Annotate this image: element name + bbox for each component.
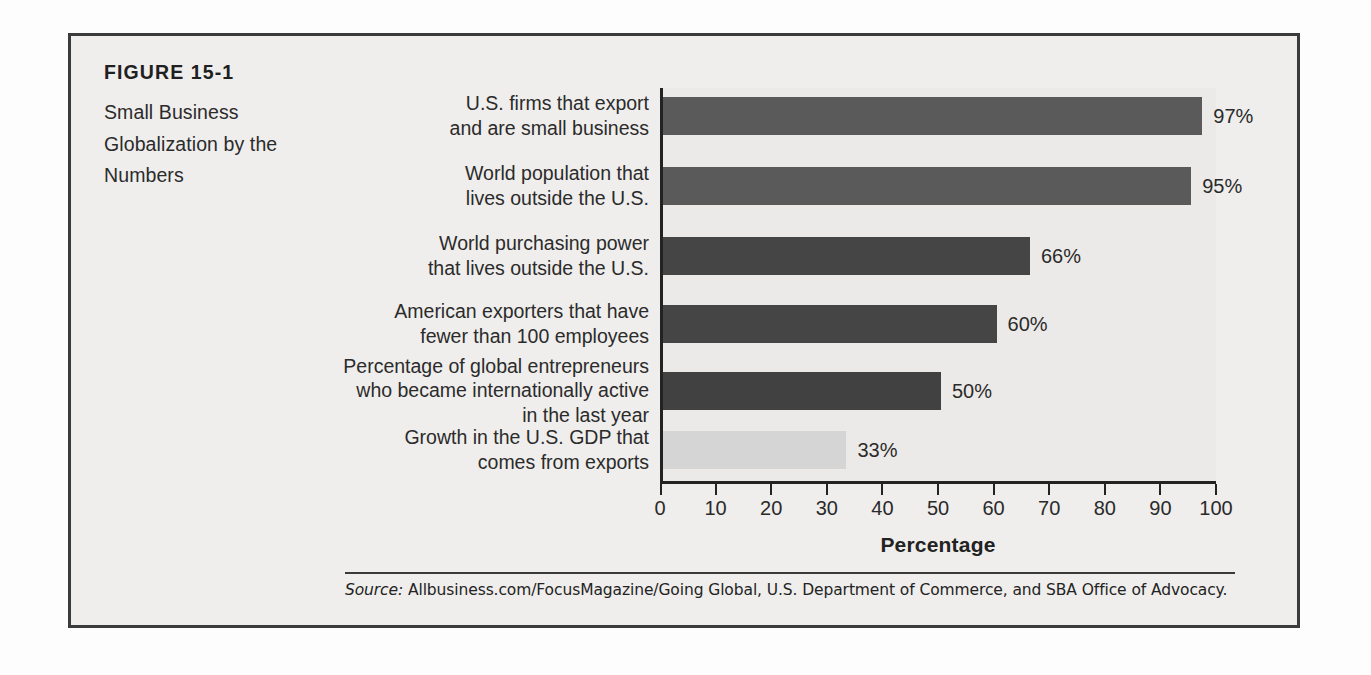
- category-label: Percentage of global entrepreneurs who b…: [343, 354, 649, 429]
- bar: [663, 305, 997, 343]
- bar-value-label: 60%: [1008, 313, 1048, 336]
- category-label: Growth in the U.S. GDP that comes from e…: [404, 425, 649, 475]
- x-axis-tick: [937, 484, 939, 495]
- x-axis-tick-label: 80: [1094, 497, 1116, 520]
- source-label: Source:: [345, 581, 403, 599]
- source-note: Source: Allbusiness.com/FocusMagazine/Go…: [345, 581, 1235, 599]
- x-axis-tick-label: 30: [816, 497, 838, 520]
- figure-frame: FIGURE 15-1 Small Business Globalization…: [68, 33, 1300, 628]
- scanned-page: FIGURE 15-1 Small Business Globalization…: [0, 0, 1371, 675]
- x-axis-tick-label: 20: [760, 497, 782, 520]
- x-axis-tick: [1159, 484, 1161, 495]
- bar: [663, 97, 1202, 135]
- bar-row: 66%: [663, 237, 1219, 275]
- x-axis-tick: [1104, 484, 1106, 495]
- bar-row: 60%: [663, 305, 1219, 343]
- category-label: U.S. firms that export and are small bus…: [450, 91, 649, 141]
- bar-row: 50%: [663, 372, 1219, 410]
- x-axis-tick-label: 10: [704, 497, 726, 520]
- bar: [663, 167, 1191, 205]
- x-axis-tick: [715, 484, 717, 495]
- x-axis-tick-label: 50: [927, 497, 949, 520]
- category-label: World purchasing power that lives outsid…: [428, 231, 649, 281]
- source-text: Allbusiness.com/FocusMagazine/Going Glob…: [403, 581, 1227, 599]
- x-axis-tick: [826, 484, 828, 495]
- x-axis-title: Percentage: [660, 533, 1216, 557]
- category-label: World population that lives outside the …: [465, 161, 649, 211]
- x-axis-tick-label: 70: [1038, 497, 1060, 520]
- bar-row: 97%: [663, 97, 1219, 135]
- x-axis-tick-label: 40: [871, 497, 893, 520]
- category-axis-line: [660, 88, 663, 481]
- x-axis-tick: [1048, 484, 1050, 495]
- category-axis-labels: U.S. firms that export and are small bus…: [71, 88, 649, 481]
- category-label: American exporters that have fewer than …: [394, 299, 649, 349]
- bar-value-label: 50%: [952, 380, 992, 403]
- bar-value-label: 66%: [1041, 245, 1081, 268]
- x-axis-tick: [881, 484, 883, 495]
- x-axis-tick: [770, 484, 772, 495]
- x-axis-tick: [993, 484, 995, 495]
- x-axis-tick-label: 100: [1199, 497, 1232, 520]
- bar: [663, 237, 1030, 275]
- bar-value-label: 95%: [1202, 175, 1242, 198]
- chart-plot-area: 97%95%66%60%50%33%0102030405060708090100: [660, 88, 1216, 481]
- x-axis-tick-label: 90: [1149, 497, 1171, 520]
- bar: [663, 372, 941, 410]
- bar-value-label: 97%: [1213, 105, 1253, 128]
- bar-row: 33%: [663, 431, 1219, 469]
- x-axis-tick-label: 0: [654, 497, 665, 520]
- x-axis-tick-label: 60: [982, 497, 1004, 520]
- x-axis-tick: [660, 484, 662, 495]
- figure-number: FIGURE 15-1: [104, 61, 374, 84]
- source-divider: [345, 572, 1235, 574]
- bar-row: 95%: [663, 167, 1219, 205]
- bar: [663, 431, 846, 469]
- bar-value-label: 33%: [857, 439, 897, 462]
- x-axis-tick: [1215, 484, 1217, 495]
